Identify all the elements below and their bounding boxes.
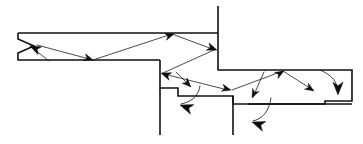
diagram-canvas xyxy=(0,0,363,144)
ray-path-diagram xyxy=(0,0,363,144)
diagram-background xyxy=(0,0,363,144)
